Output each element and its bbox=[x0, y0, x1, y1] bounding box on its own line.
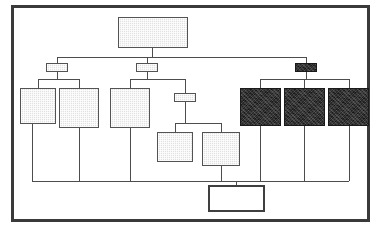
edge-sub-bus-to-box-m2 bbox=[175, 123, 176, 132]
node-left-2[interactable] bbox=[59, 88, 99, 128]
edge-box-l1-to-bottom-bus bbox=[32, 124, 33, 181]
edge-conn-left-stem bbox=[57, 72, 58, 79]
edge-right-bus-to-box-r3 bbox=[349, 79, 350, 88]
node-root[interactable] bbox=[118, 17, 188, 48]
edge-left-bus-to-box-l2 bbox=[79, 79, 80, 88]
node-connector-sub[interactable] bbox=[174, 93, 196, 102]
node-connector-right[interactable] bbox=[295, 63, 317, 72]
edge-mid-bus-to-box-m1 bbox=[130, 79, 131, 88]
edge-box-r1-to-bottom-bus bbox=[260, 126, 261, 181]
node-left-1[interactable] bbox=[20, 88, 56, 124]
edge-right-bus-to-box-r1 bbox=[260, 79, 261, 88]
node-right-3[interactable] bbox=[328, 88, 369, 126]
node-connector-left[interactable] bbox=[46, 63, 68, 72]
edge-box-m3-to-bottom-bus bbox=[221, 166, 222, 181]
node-right-1[interactable] bbox=[240, 88, 281, 126]
node-mid-1[interactable] bbox=[110, 88, 150, 128]
edge-right-bus-to-box-r2 bbox=[304, 79, 305, 88]
top-bus-line bbox=[57, 57, 307, 58]
edge-box-m1-to-bottom-bus bbox=[130, 128, 131, 181]
edge-conn-mid-stem bbox=[147, 72, 148, 79]
left-branch-bus bbox=[38, 79, 79, 80]
edge-box-r2-to-bottom-bus bbox=[304, 126, 305, 181]
node-mid-3[interactable] bbox=[202, 132, 240, 166]
edge-mid-bus-to-conn-sub bbox=[185, 79, 186, 93]
node-right-2[interactable] bbox=[284, 88, 325, 126]
node-bottom[interactable] bbox=[208, 185, 265, 212]
edge-conn-sub-stem bbox=[185, 102, 186, 123]
node-mid-2[interactable] bbox=[157, 132, 193, 162]
mid-branch-bus bbox=[130, 79, 185, 80]
edge-root-to-top-bus bbox=[152, 48, 153, 57]
edge-box-r3-to-bottom-bus bbox=[349, 126, 350, 181]
edge-sub-bus-to-box-m3 bbox=[221, 123, 222, 132]
bottom-bus-line bbox=[32, 181, 349, 182]
edge-box-l2-to-bottom-bus bbox=[79, 128, 80, 181]
node-connector-mid[interactable] bbox=[136, 63, 158, 72]
edge-left-bus-to-box-l1 bbox=[38, 79, 39, 88]
diagram-canvas bbox=[0, 0, 383, 245]
edge-conn-right-stem bbox=[306, 72, 307, 79]
sub-branch-bus bbox=[175, 123, 221, 124]
